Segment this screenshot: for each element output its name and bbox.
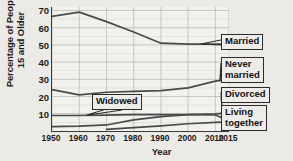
y-tick-label: 10 (24, 108, 49, 119)
series-line-married (52, 12, 229, 44)
x-tick-label: 1950 (42, 133, 61, 143)
series-label-living-together: Living together (221, 105, 267, 131)
y-tick-label: 30 (24, 74, 49, 85)
x-tick-label: 2015 (219, 133, 238, 143)
series-line-living-together (106, 122, 229, 129)
y-tick-label: 20 (24, 91, 49, 102)
line-chart: Percentage of People 15 and Older 102030… (0, 0, 293, 161)
x-tick-label: 1990 (150, 133, 169, 143)
y-tick-label: 60 (24, 22, 49, 33)
series-line-never-married (52, 79, 229, 95)
y-tick-label: 70 (24, 5, 49, 16)
y-tick-label: 40 (24, 57, 49, 68)
x-tick-label: 1960 (69, 133, 88, 143)
series-label-married: Married (221, 34, 263, 50)
plot-area (51, 7, 229, 132)
x-tick-label: 2000 (178, 133, 197, 143)
x-tick-label: 1980 (123, 133, 142, 143)
grid-and-series (52, 7, 229, 131)
series-label-widowed: Widowed (92, 94, 142, 110)
y-axis-ticks: 10203040506070 (24, 0, 49, 140)
x-tick-label: 1970 (96, 133, 115, 143)
series-label-divorced: Divorced (221, 87, 270, 103)
x-axis-title: Year (0, 146, 293, 157)
series-label-never-married: Never married (221, 57, 264, 83)
x-axis-ticks: 19501960197019801990200020102015 (0, 133, 293, 147)
y-tick-label: 50 (24, 39, 49, 50)
